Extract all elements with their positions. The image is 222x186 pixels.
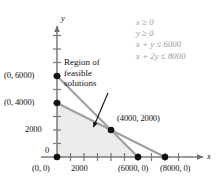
point-label-6000-0: (6000, 0): [118, 164, 148, 173]
point-0-6000: [54, 73, 61, 80]
annotation-arrow: [94, 93, 109, 127]
feasible-region-figure: y x (0, 6000) (0, 4000) (4000, 2000) (60…: [0, 0, 222, 186]
point-label-0-6000: (0, 6000): [4, 71, 34, 80]
origin-tick-label: 0: [45, 146, 49, 155]
annotation-line-1: Region of: [64, 57, 100, 68]
x-tick-label-2000: 2000: [71, 164, 88, 173]
constraint-x-nonneg: x ≥ 0: [136, 17, 186, 28]
point-label-0-4000: (0, 4000): [4, 98, 34, 107]
y-axis-name: y: [61, 14, 65, 23]
annotation-line-3: solutions: [64, 78, 100, 89]
annotation-line-2: feasible: [64, 68, 100, 79]
point-4000-2000: [108, 127, 115, 134]
point-label-8000-0: (8000, 0): [160, 164, 190, 173]
feasible-region-annotation: Region of feasible solutions: [64, 57, 100, 89]
y-tick-label-2000: 2000: [25, 125, 42, 134]
point-label-4000-2000: (4000, 2000): [117, 114, 160, 123]
constraint-y-nonneg: y ≥ 0: [136, 28, 186, 39]
point-6000-0: [135, 154, 142, 161]
constraint-sum-8000: x + 2y ≤ 8000: [136, 51, 186, 62]
constraint-sum-6000: x + y ≤ 6000: [136, 39, 186, 50]
point-0-4000: [54, 100, 61, 107]
plot-canvas: [0, 0, 222, 186]
point-0-0: [54, 154, 61, 161]
point-8000-0: [162, 154, 169, 161]
feasible-region-shading: [57, 103, 138, 157]
x-axis-name: x: [207, 152, 211, 161]
constraint-list: x ≥ 0 y ≥ 0 x + y ≤ 6000 x + 2y ≤ 8000: [136, 17, 186, 62]
point-label-0-0: (0, 0): [32, 164, 50, 173]
